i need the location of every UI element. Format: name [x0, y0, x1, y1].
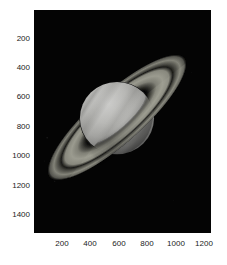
- y-tick-label: 1400: [2, 211, 30, 219]
- x-tick-label: 200: [47, 240, 77, 248]
- y-tick-label: 600: [2, 93, 30, 101]
- x-tick-label: 1000: [161, 240, 191, 248]
- y-tick-label: 200: [2, 35, 30, 43]
- y-tick-label: 1200: [2, 182, 30, 190]
- x-tick-label: 800: [132, 240, 162, 248]
- y-tick-label: 400: [2, 64, 30, 72]
- figure-canvas: 200 400 600 800 1000 1200 1400 200 400 6…: [0, 0, 227, 265]
- x-tick-label: 400: [75, 240, 105, 248]
- image-axes[interactable]: [34, 10, 211, 233]
- y-tick-label: 1000: [2, 152, 30, 160]
- saturn-image: [34, 10, 211, 233]
- y-tick-label: 800: [2, 123, 30, 131]
- x-tick-label: 600: [104, 240, 134, 248]
- x-tick-label: 1200: [189, 240, 219, 248]
